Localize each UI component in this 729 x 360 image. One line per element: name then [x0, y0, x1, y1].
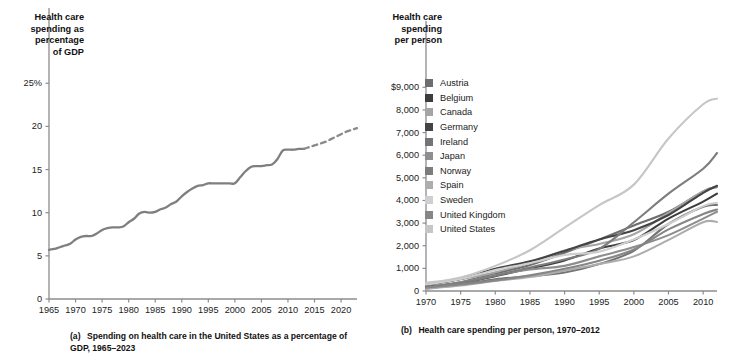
legend-item[interactable]: Spain [425, 178, 505, 193]
legend-swatch-icon [425, 225, 433, 233]
panel-a-data-line [49, 149, 304, 250]
panel-b-x-tick-label: 2010 [688, 297, 718, 307]
legend-swatch-icon [425, 123, 433, 131]
legend-swatch-icon [425, 152, 433, 160]
panel-a-caption-label: (a) [70, 331, 81, 341]
panel-a-x-tick-label: 2020 [326, 305, 356, 315]
panel-b-x-tick-label: 1980 [480, 297, 510, 307]
legend-item-label: Belgium [440, 93, 473, 103]
legend-item-label: Germany [440, 122, 478, 132]
legend-item-label: Spain [440, 180, 464, 190]
panel-b-y-axis-title: Health care spending per person [370, 12, 442, 47]
panel-b-caption-text: Health care spending per person, 1970–20… [418, 325, 600, 335]
panel-b-y-tick-label: 8,000 [371, 105, 419, 115]
legend-swatch-icon [425, 108, 433, 116]
legend-swatch-icon [425, 181, 433, 189]
panel-b-caption-label: (b) [401, 325, 412, 335]
panel-b-x-tick-label: 1970 [411, 297, 441, 307]
panel-b-x-tick-label: 1990 [550, 297, 580, 307]
legend-swatch-icon [425, 211, 433, 219]
legend-item[interactable]: Canada [425, 105, 505, 120]
panel-a-x-tick-label: 1985 [140, 305, 170, 315]
panel-b-x-tick-label: 1995 [584, 297, 614, 307]
panel-b-y-tick-label: 6,000 [371, 150, 419, 160]
panel-a-x-tick-label: 1980 [114, 305, 144, 315]
panel-a-x-tick-label: 1995 [193, 305, 223, 315]
legend-swatch-icon [425, 138, 433, 146]
panel-b-y-tick-label: 4,000 [371, 195, 419, 205]
panel-b-y-tick-label: $9,000 [371, 82, 419, 92]
panel-b-legend: AustriaBelgiumCanadaGermanyIrelandJapanN… [425, 76, 505, 237]
panel-b-y-tick-label: 3,000 [371, 218, 419, 228]
panel-a-projection-line [304, 128, 357, 149]
legend-item[interactable]: Norway [425, 164, 505, 179]
legend-swatch-icon [425, 94, 433, 102]
legend-item[interactable]: Sweden [425, 193, 505, 208]
panel-a-y-tick-label: 20 [1, 121, 42, 131]
legend-swatch-icon [425, 79, 433, 87]
panel-a-y-tick-label: 15 [1, 165, 42, 175]
legend-swatch-icon [425, 196, 433, 204]
panel-a-x-tick-label: 2015 [300, 305, 330, 315]
panel-b-x-tick-label: 1985 [515, 297, 545, 307]
panel-a-x-tick-label: 2005 [246, 305, 276, 315]
figure-root: Health care spending as percentage of GD… [0, 0, 729, 360]
panel-a-y-tick-label: 5 [1, 251, 42, 261]
panel-a-y-axis-title: Health care spending as percentage of GD… [8, 12, 84, 58]
panel-b-y-tick-label: 5,000 [371, 173, 419, 183]
panel-a-x-tick-label: 2000 [220, 305, 250, 315]
panel-b-x-tick-label: 1975 [446, 297, 476, 307]
panel-b-y-tick-label: 0 [371, 286, 419, 296]
panel-a-x-tick-label: 1965 [34, 305, 64, 315]
legend-item-label: Canada [440, 107, 472, 117]
panel-b-x-tick-label: 2000 [619, 297, 649, 307]
legend-item[interactable]: Austria [425, 76, 505, 91]
panel-a-x-tick-label: 1970 [61, 305, 91, 315]
panel-a-caption: (a) Spending on health care in the Unite… [70, 330, 360, 354]
legend-swatch-icon [425, 167, 433, 175]
panel-a-x-tick-label: 1975 [87, 305, 117, 315]
legend-item[interactable]: Ireland [425, 134, 505, 149]
panel-a-y-tick-label: 25% [1, 78, 42, 88]
legend-item-label: Ireland [440, 137, 468, 147]
legend-item-label: United Kingdom [440, 210, 505, 220]
panel-a-x-tick-label: 1990 [167, 305, 197, 315]
panel-a-x-tick-label: 2010 [273, 305, 303, 315]
panel-b-per-person-chart: Health care spending per person AustriaB… [365, 0, 729, 360]
legend-item[interactable]: Germany [425, 120, 505, 135]
legend-item[interactable]: United Kingdom [425, 207, 505, 222]
panel-b-x-tick-label: 2005 [654, 297, 684, 307]
legend-item[interactable]: Belgium [425, 91, 505, 106]
legend-item-label: Austria [440, 78, 469, 88]
panel-b-y-tick-label: 7,000 [371, 128, 419, 138]
legend-item-label: United States [440, 224, 495, 234]
panel-a-us-gdp-chart: Health care spending as percentage of GD… [0, 0, 365, 360]
legend-item-label: Sweden [440, 195, 473, 205]
legend-item[interactable]: Japan [425, 149, 505, 164]
panel-b-caption: (b) Health care spending per person, 197… [401, 324, 711, 336]
legend-item[interactable]: United States [425, 222, 505, 237]
legend-item-label: Japan [440, 151, 465, 161]
legend-item-label: Norway [440, 166, 471, 176]
panel-a-caption-text: Spending on health care in the United St… [70, 331, 347, 353]
panel-b-y-tick-label: 1,000 [371, 263, 419, 273]
panel-a-y-tick-label: 0 [1, 294, 42, 304]
panel-b-y-tick-label: 2,000 [371, 241, 419, 251]
panel-a-y-tick-label: 10 [1, 208, 42, 218]
